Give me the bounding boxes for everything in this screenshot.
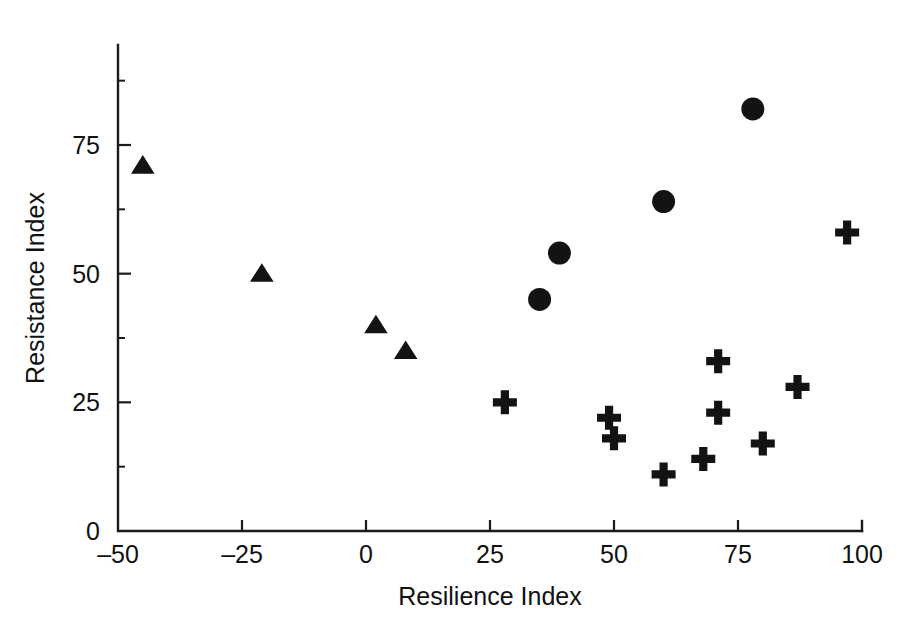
marker-plus-6 bbox=[706, 401, 730, 425]
x-axis-title: Resilience Index bbox=[398, 582, 582, 610]
marker-plus-1 bbox=[597, 406, 621, 430]
y-tick-label-75: 75 bbox=[72, 131, 100, 159]
marker-circle-0 bbox=[528, 288, 551, 311]
marker-plus-4 bbox=[691, 447, 715, 471]
series-plus-group bbox=[493, 220, 859, 486]
marker-triangle-0 bbox=[131, 155, 155, 174]
marker-circle-1 bbox=[548, 242, 571, 265]
marker-triangle-3 bbox=[394, 340, 418, 359]
marker-plus-3 bbox=[652, 462, 676, 486]
marker-circle-3 bbox=[741, 97, 764, 120]
ticks-group bbox=[118, 81, 738, 531]
y-tick-label-25: 25 bbox=[72, 388, 100, 416]
y-tick-label-0: 0 bbox=[86, 517, 100, 545]
marker-plus-2 bbox=[602, 426, 626, 450]
marker-plus-9 bbox=[835, 220, 859, 244]
x-tick-label-50: 50 bbox=[600, 540, 628, 568]
marker-plus-7 bbox=[751, 432, 775, 456]
y-tick-label-50: 50 bbox=[72, 260, 100, 288]
x-tick-label--50: ‒50 bbox=[97, 540, 139, 568]
x-tick-label--25: ‒25 bbox=[221, 540, 263, 568]
y-axis-title: Resistance Index bbox=[21, 192, 49, 384]
x-tick-label-0: 0 bbox=[359, 540, 373, 568]
marker-triangle-1 bbox=[250, 263, 274, 282]
marker-plus-5 bbox=[706, 349, 730, 373]
x-tick-label-75: 75 bbox=[724, 540, 752, 568]
x-tick-label-100: 100 bbox=[841, 540, 883, 568]
series-triangle-group bbox=[131, 155, 417, 359]
marker-circle-2 bbox=[652, 190, 675, 213]
marker-plus-0 bbox=[493, 390, 517, 414]
marker-plus-8 bbox=[786, 375, 810, 399]
scatter-plot-figure: ‒50‒2502550751000255075 Resilience Index… bbox=[0, 0, 911, 622]
data-markers-group bbox=[131, 97, 859, 486]
x-tick-label-25: 25 bbox=[476, 540, 504, 568]
series-circle-group bbox=[528, 97, 764, 310]
marker-triangle-2 bbox=[364, 315, 388, 334]
tick-labels-group: ‒50‒2502550751000255075 bbox=[72, 131, 883, 568]
plot-canvas: ‒50‒2502550751000255075 Resilience Index… bbox=[0, 0, 911, 622]
